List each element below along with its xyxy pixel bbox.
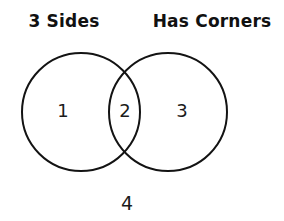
- venn-diagram-figure: 3 Sides Has Corners 1 2 3 4: [0, 0, 284, 221]
- region-label-intersection: 2: [110, 101, 140, 121]
- venn-circles-svg: [0, 0, 284, 221]
- region-label-left-only: 1: [48, 101, 78, 121]
- region-label-outside: 4: [112, 193, 142, 213]
- region-label-right-only: 3: [167, 101, 197, 121]
